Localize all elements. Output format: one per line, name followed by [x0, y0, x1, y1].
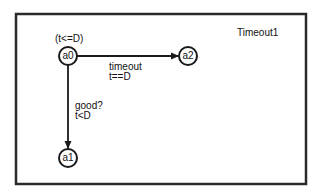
- node-a2-label: a2: [179, 47, 197, 65]
- edge-a0-a1-guard: t<D: [75, 110, 91, 121]
- node-a0-label: a0: [59, 47, 77, 65]
- automaton-title: Timeout1: [237, 27, 278, 38]
- edge-a0-a2-guard: t==D: [109, 71, 131, 82]
- invariant-a0: (t<=D): [55, 33, 83, 44]
- node-a1-label: a1: [59, 149, 77, 167]
